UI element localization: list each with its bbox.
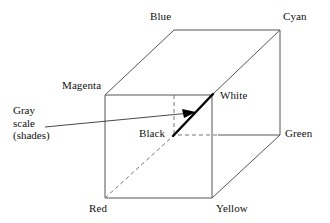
vertex-label-white: White <box>220 89 247 101</box>
rgb-color-cube-diagram: Blue Cyan Magenta White Black Green Red … <box>0 0 330 223</box>
gray-scale-callout-label: Gray scale (shades) <box>13 104 50 142</box>
edge-magenta-blue <box>105 30 174 95</box>
vertex-label-blue: Blue <box>150 10 171 22</box>
vertex-label-yellow: Yellow <box>216 202 248 214</box>
gray-scale-callout-line-1: Gray <box>13 104 50 117</box>
gray-scale-callout-leader <box>45 109 196 127</box>
hidden-edges <box>105 95 280 198</box>
vertex-label-black: Black <box>139 127 165 139</box>
vertex-label-cyan: Cyan <box>283 10 307 22</box>
edge-green-yellow <box>212 135 280 198</box>
vertex-label-green: Green <box>285 127 312 139</box>
vertex-label-magenta: Magenta <box>62 79 101 91</box>
gray-scale-callout-line-2: scale <box>13 117 50 130</box>
top-face-edges <box>105 30 280 95</box>
right-face-edges <box>212 30 280 198</box>
gray-scale-callout-line-3: (shades) <box>13 129 50 142</box>
gray-scale-axis-line <box>173 94 213 136</box>
edge-cyan-white <box>212 30 280 95</box>
edge-red-black-hidden <box>105 137 172 198</box>
callout-leader-line <box>45 113 190 127</box>
vertex-label-red: Red <box>89 202 107 214</box>
